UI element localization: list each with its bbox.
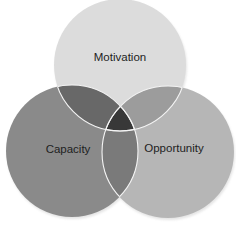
capacity-label: Capacity [46, 143, 91, 155]
motivation-label: Motivation [94, 51, 146, 63]
venn-diagram: Motivation Capacity Opportunity [0, 0, 236, 235]
opportunity-label: Opportunity [144, 142, 204, 154]
